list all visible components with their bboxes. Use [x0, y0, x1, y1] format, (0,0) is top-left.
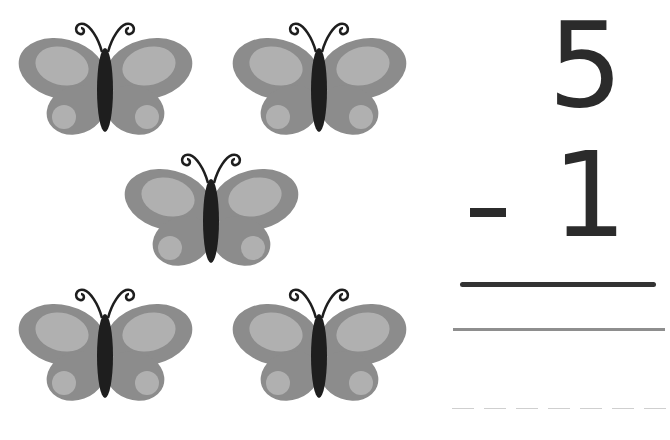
dashed-guide-line [452, 408, 666, 409]
answer-line [460, 282, 656, 287]
butterfly-5 [232, 278, 407, 403]
butterfly-icon [232, 12, 407, 137]
minuend: 5 [548, 6, 623, 124]
butterfly-icon [18, 12, 193, 137]
butterfly-4 [18, 278, 193, 403]
subtrahend: 1 [552, 136, 627, 254]
butterfly-icon [124, 143, 299, 268]
minus-sign [470, 208, 506, 217]
butterfly-icon [232, 278, 407, 403]
butterfly-icon [18, 278, 193, 403]
butterfly-1 [18, 12, 193, 137]
butterfly-2 [232, 12, 407, 137]
answer-guide-line [453, 328, 665, 331]
butterfly-3 [124, 143, 299, 268]
